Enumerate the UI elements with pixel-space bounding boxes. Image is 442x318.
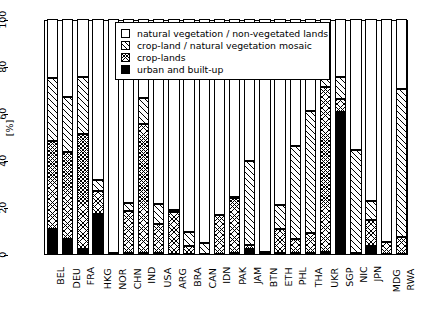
bar-segment-crop	[229, 198, 240, 253]
bar-segment-crop	[305, 233, 316, 253]
bar-segment-crop	[335, 99, 346, 112]
x-tick-label: ETH	[284, 267, 294, 286]
x-tick-label: CHN	[133, 268, 143, 289]
x-tick-label: FRA	[86, 267, 96, 285]
x-tick-label: NOR	[118, 269, 128, 290]
bar-segment-crop	[244, 245, 255, 249]
bar-segment-crop	[290, 239, 301, 253]
bar-segment-mosaic	[138, 98, 149, 124]
x-tick-label: SGP	[345, 268, 355, 287]
legend-swatch-mosaic-icon	[121, 41, 130, 50]
bar-segment-mosaic	[244, 161, 255, 246]
bar-segment-natural	[381, 19, 392, 242]
bar-segment-crop	[214, 215, 225, 254]
bar-segment-mosaic	[62, 97, 73, 152]
bar-segment-crop	[396, 237, 407, 253]
bar-segment-urban	[77, 249, 88, 254]
bar-segment-crop	[62, 152, 73, 239]
x-tick-label: HKG	[103, 268, 113, 289]
y-tick-label: 40	[0, 155, 8, 167]
chart-legend: natural vegetation / non-vegetated lands…	[115, 22, 330, 80]
bar-segment-mosaic	[168, 210, 179, 212]
bar-segment-mosaic	[290, 146, 301, 239]
bar-segment-mosaic	[365, 201, 376, 220]
bar-segment-natural	[92, 19, 103, 180]
bar-segment-crop	[153, 224, 164, 253]
bar-segment-natural	[62, 19, 73, 97]
x-tick-label: CAN	[209, 268, 219, 288]
x-tick-label: DEU	[72, 268, 82, 288]
bar-hkg	[92, 19, 103, 254]
x-tick-label: ARG	[178, 268, 188, 288]
bar-segment-urban	[47, 229, 58, 254]
chart-figure: [%] 020406080100 natural vegetation / no…	[0, 0, 442, 318]
bar-jpn	[365, 19, 376, 254]
x-tick-label: PAK	[238, 267, 248, 285]
x-tick-label: BEL	[56, 267, 66, 285]
bar-segment-mosaic	[396, 89, 407, 237]
legend-label: crop-lands	[137, 52, 186, 63]
bar-segment-natural	[77, 19, 88, 77]
bar-segment-natural	[47, 19, 58, 78]
x-tick-label: PHL	[299, 267, 309, 285]
bar-segment-mosaic	[153, 204, 164, 224]
bar-segment-crop	[123, 211, 134, 253]
bar-segment-mosaic	[92, 180, 103, 191]
bar-rwa	[396, 19, 407, 254]
bar-segment-urban	[365, 246, 376, 254]
x-tick-label: UKR	[330, 268, 340, 288]
legend-swatch-crop-icon	[121, 53, 130, 62]
y-tick-label: 80	[0, 61, 8, 73]
x-tick-label: BTN	[269, 268, 279, 287]
x-tick-label: BRA	[193, 268, 203, 287]
bar-segment-crop	[365, 220, 376, 246]
bar-segment-mosaic	[274, 205, 285, 229]
bar-mdg	[381, 19, 392, 254]
bar-segment-crop	[168, 212, 179, 253]
legend-swatch-urban-icon	[121, 65, 130, 74]
bar-segment-natural	[396, 19, 407, 89]
y-axis-label: [%]	[4, 120, 15, 136]
bar-segment-natural	[350, 19, 361, 150]
legend-item: urban and built-up	[121, 63, 323, 75]
x-tick-label: NIC	[358, 266, 368, 283]
bar-segment-urban	[244, 249, 255, 254]
x-tick-label: JPN	[373, 266, 383, 282]
bar-segment-crop	[92, 191, 103, 215]
y-tick-label: 20	[0, 202, 8, 214]
bar-segment-urban	[320, 252, 331, 254]
legend-label: natural vegetation / non-vegetated lands	[137, 28, 328, 39]
legend-item: crop-land / natural vegetation mosaic	[121, 39, 323, 51]
bar-segment-crop	[381, 242, 392, 254]
bar-bel	[47, 19, 58, 254]
bar-fra	[77, 19, 88, 254]
bar-segment-mosaic	[199, 243, 210, 254]
y-tick-label: 60	[0, 108, 8, 120]
y-tick-label: 0	[0, 252, 8, 258]
bar-segment-mosaic	[77, 77, 88, 135]
bar-segment-natural	[365, 19, 376, 201]
bar-sgp	[335, 19, 346, 254]
x-tick-label: IDN	[222, 267, 232, 284]
bar-segment-urban	[62, 239, 73, 254]
bar-deu	[62, 19, 73, 254]
bar-segment-crop	[77, 134, 88, 249]
x-tick-label: JAM	[253, 267, 263, 284]
bar-segment-crop	[138, 124, 149, 253]
bar-segment-mosaic	[183, 232, 194, 246]
bar-segment-urban	[335, 112, 346, 254]
bar-segment-crop	[183, 246, 194, 253]
bar-segment-mosaic	[47, 78, 58, 141]
legend-item: natural vegetation / non-vegetated lands	[121, 27, 323, 39]
x-tick-label: MDG	[392, 269, 402, 292]
bar-segment-mosaic	[305, 111, 316, 233]
bar-segment-crop	[320, 87, 331, 252]
legend-swatch-natural-icon	[121, 29, 130, 38]
legend-label: crop-land / natural vegetation mosaic	[137, 40, 312, 51]
x-tick-label: IND	[146, 267, 156, 284]
bar-segment-mosaic	[335, 77, 346, 99]
x-tick-label: THA	[314, 268, 324, 287]
x-tick-label: RWA	[406, 269, 416, 291]
bar-nic	[350, 19, 361, 254]
x-tick-label: USA	[163, 268, 173, 288]
